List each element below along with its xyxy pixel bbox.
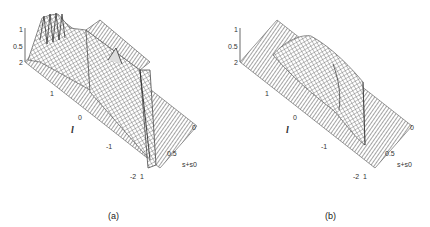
l-tick-minus-1: -1 — [321, 143, 327, 150]
l-tick-2: 2 — [19, 59, 23, 66]
s-tick-0: 0 — [410, 124, 414, 131]
surface-mesh-b — [215, 0, 430, 227]
surface-mesh-a — [0, 0, 215, 227]
s-tick-1: 1 — [140, 173, 144, 180]
z-tick-0.5: 0.5 — [228, 43, 238, 50]
s-tick-1: 1 — [363, 173, 367, 180]
l-tick-minus-2: -2 — [353, 173, 359, 180]
z-tick-1: 1 — [234, 26, 238, 33]
z-tick-1: 1 — [19, 26, 23, 33]
l-tick-2: 2 — [234, 59, 238, 66]
surface-plot-b: 1 0.5 2 1 0 -1 -2 1 0.5 0 s+s0 l (b) — [215, 0, 430, 227]
l-axis-label: l — [71, 124, 74, 135]
s-tick-0: 0 — [192, 124, 196, 131]
l-axis-label: l — [286, 124, 289, 135]
l-tick-minus-1: -1 — [106, 143, 112, 150]
s-axis-label: s+s0 — [182, 161, 197, 168]
s-tick-0.5: 0.5 — [385, 150, 395, 157]
surface-plot-a: 1 0.5 2 1 0 -1 -2 1 0.5 0 s+s0 l (a) — [0, 0, 215, 227]
z-tick-0.5: 0.5 — [13, 43, 23, 50]
l-tick-0: 0 — [78, 114, 82, 121]
l-tick-0: 0 — [293, 114, 297, 121]
s-axis-label: s+s0 — [397, 161, 412, 168]
l-tick-minus-2: -2 — [130, 173, 136, 180]
caption-b: (b) — [325, 211, 336, 221]
l-tick-1: 1 — [50, 90, 54, 97]
s-tick-0.5: 0.5 — [167, 150, 177, 157]
l-tick-1: 1 — [265, 90, 269, 97]
caption-a: (a) — [108, 211, 119, 221]
